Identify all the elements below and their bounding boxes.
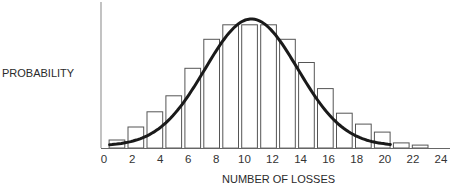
x-tick-label: 12 — [266, 153, 279, 165]
x-tick-label: 22 — [407, 153, 420, 165]
histogram-bar — [393, 143, 409, 148]
histogram-chart: 024681012141618202224 — [0, 0, 465, 195]
x-tick-label: 14 — [294, 153, 307, 165]
x-tick-label: 24 — [435, 153, 448, 165]
x-tick-label: 4 — [157, 153, 164, 165]
histogram-bar — [223, 25, 239, 148]
histogram-bar — [261, 25, 277, 148]
x-tick-label: 18 — [350, 153, 363, 165]
x-tick-label: 10 — [238, 153, 251, 165]
x-tick-labels: 024681012141618202224 — [101, 153, 448, 165]
histogram-bar — [242, 25, 258, 148]
x-tick-label: 16 — [322, 153, 335, 165]
x-tick-label: 8 — [213, 153, 219, 165]
histogram-bar — [412, 145, 428, 148]
x-tick-label: 20 — [378, 153, 391, 165]
x-tick-label: 2 — [129, 153, 135, 165]
histogram-bar — [280, 39, 296, 148]
x-tick-label: 0 — [101, 153, 107, 165]
x-tick-label: 6 — [185, 153, 191, 165]
